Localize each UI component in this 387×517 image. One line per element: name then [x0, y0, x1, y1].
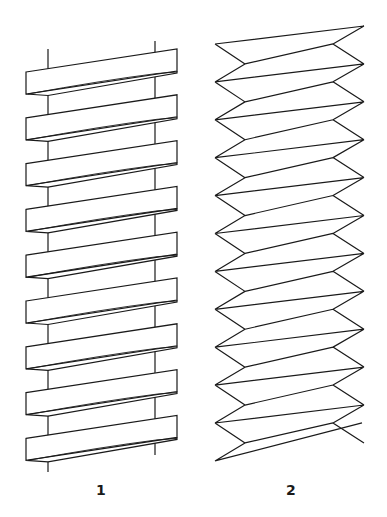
band	[26, 49, 177, 94]
band	[26, 324, 177, 369]
band	[26, 278, 177, 323]
figure-2-zigzag-helix	[215, 26, 364, 461]
figure-2-label: 2	[286, 483, 296, 497]
figure-1-label: 1	[96, 483, 106, 497]
zigzag-edges	[215, 26, 364, 461]
band	[26, 415, 177, 460]
figure-1-ribbon-helix	[26, 41, 177, 472]
band	[26, 186, 177, 231]
band	[26, 370, 177, 415]
bands	[26, 49, 177, 462]
diagram-canvas	[0, 0, 387, 517]
band	[26, 232, 177, 277]
band	[26, 95, 177, 140]
band	[26, 141, 177, 186]
